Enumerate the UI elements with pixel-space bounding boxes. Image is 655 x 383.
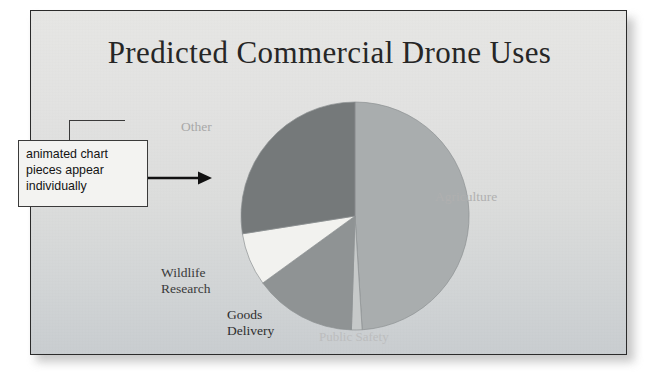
page-canvas: Predicted Commercial Drone Uses Other Ag…: [0, 0, 655, 383]
pie-label-wildlife-research: Wildlife Research: [161, 265, 210, 298]
right-arrow-icon: [148, 168, 214, 188]
annotation-callout: animated chart pieces appear individuall…: [18, 140, 148, 207]
callout-leader-line-horizontal: [69, 120, 125, 121]
pie-label-agriculture: Agriculture: [435, 189, 497, 205]
pie-label-public-safety: Public Safety: [319, 329, 389, 345]
pie-slice-group: [241, 102, 469, 330]
callout-leader-line-vertical: [69, 120, 70, 141]
pie-slice-other: [241, 102, 355, 234]
pie-label-goods-delivery: Goods Delivery: [227, 307, 274, 340]
pie-label-other: Other: [181, 119, 212, 135]
pie-slice-agriculture: [355, 102, 469, 330]
